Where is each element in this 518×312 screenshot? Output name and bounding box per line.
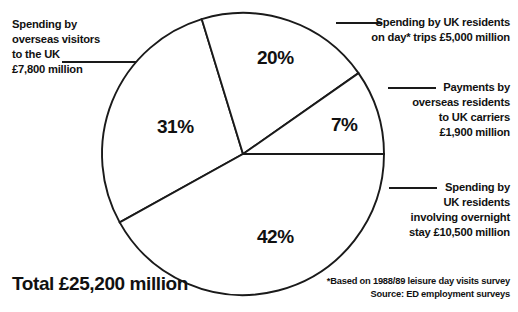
total-label: Total £25,200 million	[12, 274, 188, 293]
callout-line: Payments by	[412, 80, 510, 95]
callout-overnight-stay: Spending by UK residents involving overn…	[409, 180, 510, 240]
callout-line: Spending by UK residents	[371, 15, 510, 30]
pie-slices	[102, 13, 384, 295]
callout-uk-carriers: Payments by overseas residents to UK car…	[412, 80, 510, 140]
callout-line: £1,900 million	[412, 125, 510, 140]
callout-line: to the UK	[12, 47, 100, 62]
callout-line: £7,800 million	[12, 62, 100, 77]
footnote-basis-line: *Based on 1988/89 leisure day visits sur…	[327, 275, 510, 288]
callout-line: involving overnight	[409, 210, 510, 225]
slice-percent-label-7: 7%	[331, 115, 357, 134]
callout-line: Spending by	[12, 17, 100, 32]
callout-line: Spending by	[409, 180, 510, 195]
callout-line: on day* trips £5,000 million	[371, 30, 510, 45]
chart-footnote: *Based on 1988/89 leisure day visits sur…	[327, 275, 510, 300]
callout-line: UK residents	[409, 195, 510, 210]
callout-day-trips: Spending by UK residents on day* trips £…	[371, 15, 510, 45]
slice-percent-label-31: 31%	[157, 117, 194, 136]
callout-line: overseas residents	[412, 95, 510, 110]
slice-percent-label-42: 42%	[257, 227, 294, 246]
footnote-source-line: Source: ED employment surveys	[327, 288, 510, 301]
pie-chart-figure: 31% 20% 7% 42% Spending by overseas visi…	[0, 0, 518, 312]
callout-line: to UK carriers	[412, 110, 510, 125]
callout-line: stay £10,500 million	[409, 225, 510, 240]
slice-percent-label-20: 20%	[257, 48, 294, 67]
callout-overseas-visitors: Spending by overseas visitors to the UK …	[12, 17, 100, 77]
callout-line: overseas visitors	[12, 32, 100, 47]
